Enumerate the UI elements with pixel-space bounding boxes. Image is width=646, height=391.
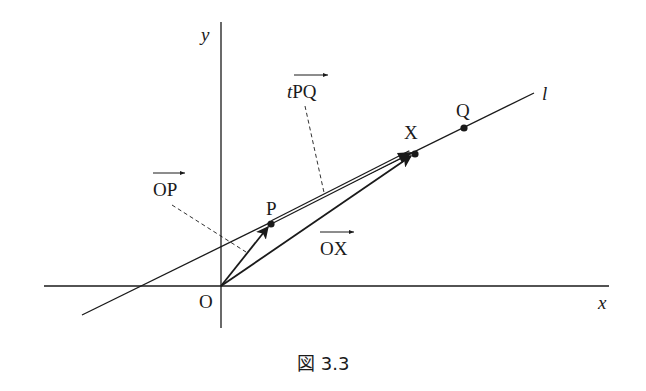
vector-tpq-arrow xyxy=(272,152,413,222)
leader-line-tpq xyxy=(305,106,325,197)
y-axis-label: y xyxy=(199,24,210,45)
vector-op-label: OP xyxy=(153,173,185,200)
figure-caption: 図 3.3 xyxy=(297,353,349,374)
vector-tpq-label-text: PQ xyxy=(292,81,317,102)
vector-tpq-label: tPQ xyxy=(287,75,328,102)
svg-text:tPQ: tPQ xyxy=(287,81,317,102)
point-p xyxy=(267,220,274,227)
vector-ox-label-text: OX xyxy=(320,238,348,259)
point-q xyxy=(460,124,467,131)
x-axis-label: x xyxy=(597,292,607,313)
vector-op-label-text: OP xyxy=(153,179,177,200)
vector-ox-label: OX xyxy=(320,232,354,259)
point-p-label: P xyxy=(266,198,277,219)
origin-label: O xyxy=(199,291,213,312)
vector-ox-arrow xyxy=(221,156,411,286)
line-l-label: l xyxy=(542,83,547,104)
vector-line-diagram: y x O l P X Q OP OX tPQ 図 3.3 xyxy=(0,0,646,391)
point-q-label: Q xyxy=(456,100,470,121)
point-x xyxy=(411,150,418,157)
leader-line-op xyxy=(172,205,246,252)
point-x-label: X xyxy=(404,122,418,143)
